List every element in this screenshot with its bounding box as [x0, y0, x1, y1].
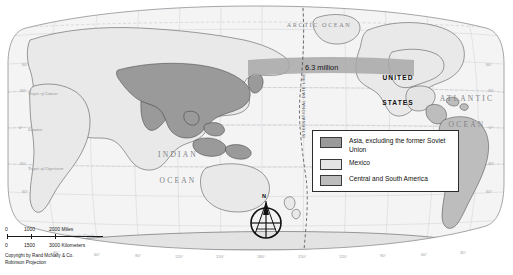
scale-km-max: 3000 Kilometers	[49, 242, 85, 248]
legend-label-mexico: Mexico	[349, 159, 370, 168]
legend-swatch-central-south-america	[320, 175, 342, 186]
scale-miles-zero: 0	[5, 226, 8, 232]
map-projection-note: Robinson Projection	[5, 260, 133, 267]
scale-miles-numbers: 0 1000 2000 Miles	[5, 226, 133, 234]
scale-km-mid: 1500	[24, 242, 35, 248]
compass-north-label: N	[262, 193, 266, 199]
scale-km-zero: 0	[5, 242, 8, 248]
legend-item-mexico[interactable]: Mexico	[320, 159, 452, 170]
legend-swatch-mexico	[320, 159, 342, 170]
scale-miles-bar	[5, 234, 133, 239]
legend-item-asia[interactable]: Asia, excluding the former Soviet Union	[320, 137, 452, 154]
scale-bars: 0 1000 2000 Miles 0 1500 3000 Kilometers…	[5, 226, 133, 266]
map-legend: Asia, excluding the former Soviet Union …	[312, 130, 459, 192]
legend-swatch-asia	[320, 137, 342, 148]
scale-miles-mid: 1000	[24, 226, 35, 232]
scale-km-numbers: 0 1500 3000 Kilometers	[5, 242, 133, 250]
world-map-figure: ARCTIC OCEAN PACIFIC OCEAN ATLANTIC OCEA…	[0, 0, 513, 275]
legend-label-asia: Asia, excluding the former Soviet Union	[349, 137, 452, 154]
legend-label-central-south-america: Central and South America	[349, 175, 428, 184]
compass-rose: N	[243, 193, 289, 241]
compass-rose-icon	[243, 193, 289, 241]
legend-item-central-south-america[interactable]: Central and South America	[320, 175, 452, 186]
map-copyright: Copyright by Rand McNally & Co.	[5, 253, 133, 260]
scale-miles-max: 2000 Miles	[49, 226, 73, 232]
